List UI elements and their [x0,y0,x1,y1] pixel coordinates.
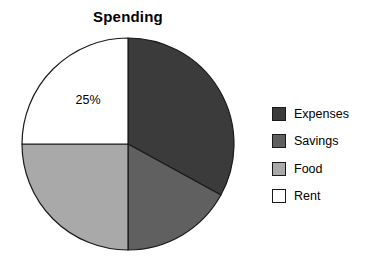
legend-item-label: Rent [294,190,320,203]
pie-slice-food[interactable] [22,144,128,250]
legend-swatch-icon [272,162,286,176]
pie-slices-group [22,38,234,250]
legend-item-label: Food [294,163,323,176]
pie-slice-rent[interactable] [22,38,128,144]
legend-item-label: Savings [294,135,338,148]
chart-legend: ExpensesSavingsFoodRent [272,100,372,210]
legend-item-label: Expenses [294,108,349,121]
pie-plot-area: 25% [0,0,256,269]
pie-slice-label-rent: 25% [75,93,100,107]
legend-item-savings[interactable]: Savings [272,128,372,156]
legend-swatch-icon [272,107,286,121]
legend-swatch-icon [272,134,286,148]
legend-swatch-icon [272,189,286,203]
pie-svg: 25% [0,0,256,269]
pie-data-labels-group: 25% [75,93,100,107]
legend-item-expenses[interactable]: Expenses [272,100,372,128]
pie-chart-figure: Spending 25% ExpensesSavingsFoodRent [0,0,372,269]
legend-item-rent[interactable]: Rent [272,183,372,211]
legend-item-food[interactable]: Food [272,155,372,183]
